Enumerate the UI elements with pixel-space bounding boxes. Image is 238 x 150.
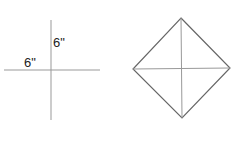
diagram-canvas [0, 0, 238, 150]
horizontal-dimension-label: 6" [24, 56, 36, 69]
vertical-dimension-label: 6" [53, 36, 65, 49]
diamond-vertical-diagonal [181, 18, 182, 118]
